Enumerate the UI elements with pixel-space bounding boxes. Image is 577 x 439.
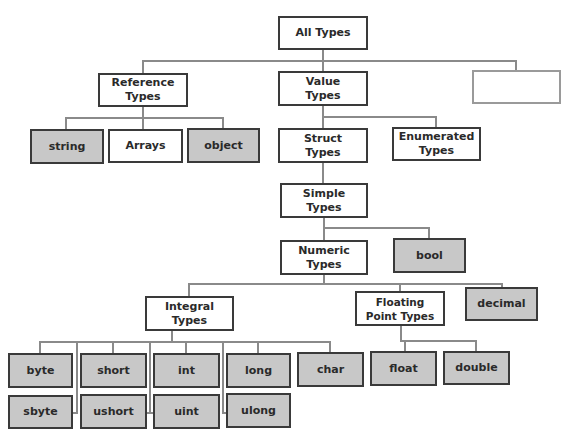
connector — [76, 341, 78, 413]
node-long: long — [226, 353, 291, 388]
node-byte: byte — [8, 353, 73, 388]
node-uint: uint — [153, 394, 220, 429]
node-struct-types: Struct Types — [278, 128, 368, 163]
connector — [146, 412, 153, 414]
node-char: char — [297, 352, 364, 387]
connector — [222, 117, 224, 128]
connector — [185, 341, 187, 353]
connector — [39, 341, 41, 353]
node-sbyte: sbyte — [8, 395, 73, 429]
connector — [428, 227, 430, 238]
connector — [149, 341, 151, 413]
node-bool: bool — [393, 238, 466, 273]
node-ulong: ulong — [226, 393, 291, 428]
connector — [142, 60, 144, 73]
node-object: object — [187, 128, 260, 163]
connector — [515, 60, 517, 70]
connector — [323, 227, 430, 229]
node-floating-point-types: Floating Point Types — [355, 291, 445, 326]
node-numeric-types: Numeric Types — [280, 240, 368, 275]
connector — [400, 325, 402, 341]
connector — [112, 341, 114, 353]
connector — [322, 116, 437, 118]
connector — [65, 117, 224, 119]
node-all-types: All Types — [278, 16, 368, 50]
node-value-types: Value Types — [278, 71, 368, 106]
connector — [257, 341, 259, 353]
node-short: short — [80, 353, 147, 388]
connector — [322, 162, 324, 183]
connector — [222, 341, 224, 413]
node-int: int — [153, 353, 220, 388]
connector — [435, 116, 437, 127]
connector — [188, 283, 190, 296]
connector — [65, 117, 67, 129]
connector — [188, 283, 503, 285]
node-empty-box — [472, 70, 561, 104]
node-enumerated-types: Enumerated Types — [392, 127, 481, 161]
node-simple-types: Simple Types — [280, 183, 368, 218]
node-float: float — [370, 351, 437, 386]
node-string: string — [30, 129, 104, 164]
node-decimal: decimal — [465, 287, 538, 321]
connector — [399, 283, 401, 291]
connector — [142, 60, 517, 62]
node-double: double — [443, 351, 510, 385]
connector — [400, 340, 477, 342]
node-integral-types: Integral Types — [145, 296, 234, 331]
node-arrays: Arrays — [108, 129, 183, 163]
node-reference-types: Reference Types — [98, 73, 188, 107]
node-ushort: ushort — [80, 394, 147, 429]
